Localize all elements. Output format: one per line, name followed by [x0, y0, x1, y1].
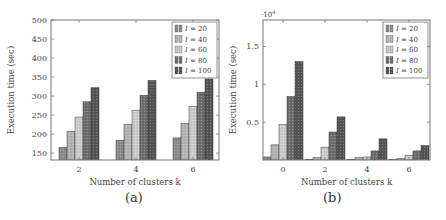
- bar: [279, 124, 287, 160]
- legend-swatch: [386, 36, 389, 43]
- panel-label-b: (b): [323, 190, 341, 205]
- legend-label: I = 20: [184, 25, 207, 33]
- bar: [75, 117, 83, 160]
- x-tick-label: 2: [322, 165, 327, 174]
- bar: [337, 117, 345, 160]
- y-tick-label: 350: [32, 73, 47, 82]
- legend-label: I = 20: [395, 25, 418, 33]
- chart-panel-a: 150200250300350400450500246Number of clu…: [0, 0, 223, 220]
- y-tick-label: 150: [32, 149, 47, 158]
- legend-swatch: [386, 57, 389, 64]
- y-tick-label: 500: [32, 16, 47, 25]
- legend-swatch: [386, 67, 389, 74]
- legend-label: I = 60: [184, 46, 207, 54]
- bar: [189, 107, 197, 160]
- y-tick-label: 300: [32, 92, 47, 101]
- legend-swatch: [175, 57, 178, 64]
- bar: [413, 151, 421, 160]
- bar: [173, 138, 181, 160]
- y-tick-label: 1: [254, 80, 259, 89]
- legend-label: I = 40: [395, 36, 418, 44]
- legend-swatch: [386, 25, 389, 32]
- chart-panel-b: 0.511.50246·104Number of clusters kExecu…: [223, 0, 446, 220]
- legend: I = 20I = 40I = 60I = 80I = 100: [383, 22, 428, 78]
- x-axis-label: Number of clusters k: [301, 177, 393, 187]
- bar: [67, 131, 75, 160]
- x-tick-label: 2: [76, 165, 81, 174]
- bar: [91, 88, 99, 160]
- y-tick-label: 400: [32, 54, 47, 63]
- bars: [59, 79, 213, 160]
- bar: [181, 123, 189, 160]
- legend: I = 20I = 40I = 60I = 80I = 100: [172, 22, 217, 78]
- bar: [124, 125, 132, 160]
- y-tick-label: 250: [32, 111, 47, 120]
- bar: [371, 151, 379, 160]
- bar: [329, 132, 337, 160]
- legend-label: I = 40: [184, 36, 207, 44]
- y-tick-label: 450: [32, 35, 47, 44]
- bar: [287, 96, 295, 160]
- bar: [116, 140, 124, 160]
- bar: [59, 147, 67, 160]
- legend-label: I = 100: [395, 67, 422, 75]
- legend-swatch: [175, 67, 178, 74]
- bar: [140, 95, 148, 160]
- y-axis-label: Execution time (sec): [228, 46, 238, 134]
- x-tick-label: 0: [280, 165, 285, 174]
- legend-label: I = 60: [395, 46, 418, 54]
- y-tick-label: 0.5: [246, 118, 259, 127]
- legend-label: I = 80: [184, 57, 207, 65]
- bar: [379, 139, 387, 160]
- x-axis-label: Number of clusters k: [89, 177, 181, 187]
- bar-chart-a: 150200250300350400450500246Number of clu…: [0, 0, 223, 200]
- bar: [148, 80, 156, 160]
- legend-swatch: [175, 36, 178, 43]
- x-tick-label: 6: [190, 165, 195, 174]
- legend-label: I = 100: [184, 67, 211, 75]
- bar: [132, 110, 140, 160]
- y-axis-label: Execution time (sec): [6, 46, 16, 134]
- legend-swatch: [175, 25, 178, 32]
- y-multiplier: ·104: [261, 9, 275, 19]
- y-tick-label: 200: [32, 130, 47, 139]
- bar: [421, 146, 429, 160]
- panel-label-a: (a): [125, 190, 143, 205]
- legend-swatch: [175, 46, 178, 53]
- bar: [271, 145, 279, 160]
- x-tick-label: 6: [406, 165, 411, 174]
- legend-swatch: [386, 46, 389, 53]
- x-tick-label: 4: [133, 165, 138, 174]
- legend-label: I = 80: [395, 57, 418, 65]
- bar: [205, 79, 213, 160]
- bar: [295, 62, 303, 160]
- bar-chart-b: 0.511.50246·104Number of clusters kExecu…: [223, 0, 446, 200]
- bar: [197, 92, 205, 160]
- bar: [83, 102, 91, 160]
- x-tick-label: 4: [364, 165, 369, 174]
- y-tick-label: 1.5: [246, 42, 259, 51]
